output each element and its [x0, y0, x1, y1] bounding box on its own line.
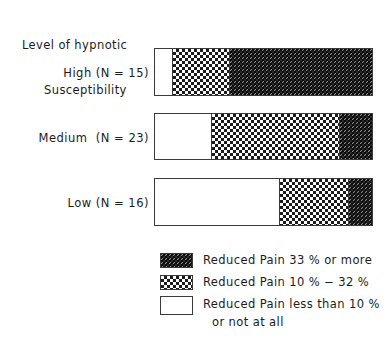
bar-segment-dark — [348, 179, 372, 225]
legend-item-reduced-10-to-32: Reduced Pain 10 % − 32 % — [160, 273, 386, 293]
legend-label: Reduced Pain 10 % − 32 % — [203, 275, 369, 290]
legend-swatch-checker-icon — [160, 275, 193, 290]
bar-segment-none — [155, 114, 211, 159]
legend-swatch-white-icon — [160, 296, 193, 315]
chart-legend: Reduced Pain 33 % or more Reduced Pain 1… — [160, 251, 386, 337]
category-label-low: Low (N = 16) — [0, 196, 149, 210]
legend-item-reduced-33-or-more: Reduced Pain 33 % or more — [160, 251, 386, 271]
bar-segment-dark — [339, 114, 372, 159]
legend-label: Reduced Pain less than 10 % — [203, 297, 380, 312]
bar-low — [154, 178, 373, 226]
bar-segment-none — [155, 49, 172, 95]
legend-label: Reduced Pain 33 % or more — [203, 253, 372, 268]
legend-item-reduced-less-than-10: Reduced Pain less than 10 % or not at al… — [160, 295, 386, 335]
category-label-medium: Medium (N = 23) — [0, 131, 149, 145]
bar-medium — [154, 113, 373, 160]
bar-segment-none — [155, 179, 279, 225]
category-label-high: High (N = 15) — [0, 66, 149, 80]
bar-segment-mid — [172, 49, 228, 95]
legend-swatch-dark-icon — [160, 253, 193, 268]
bar-segment-dark — [229, 49, 372, 95]
bar-high — [154, 48, 373, 96]
bar-segment-mid — [279, 179, 348, 225]
bar-segment-mid — [211, 114, 339, 159]
stacked-bar-chart-figure: Level of hypnotic Susceptibility High (N… — [0, 0, 386, 343]
legend-label-line-2: or not at all — [212, 315, 284, 330]
